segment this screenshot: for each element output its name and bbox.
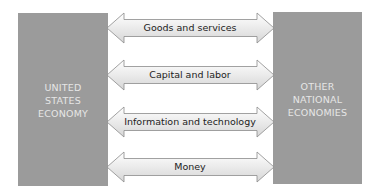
money-label: Money	[120, 161, 260, 173]
information-and-technology-label: Information and technology	[120, 116, 260, 128]
capital-and-labor-label: Capital and labor	[120, 69, 260, 81]
goods-and-services-label: Goods and services	[120, 22, 260, 34]
